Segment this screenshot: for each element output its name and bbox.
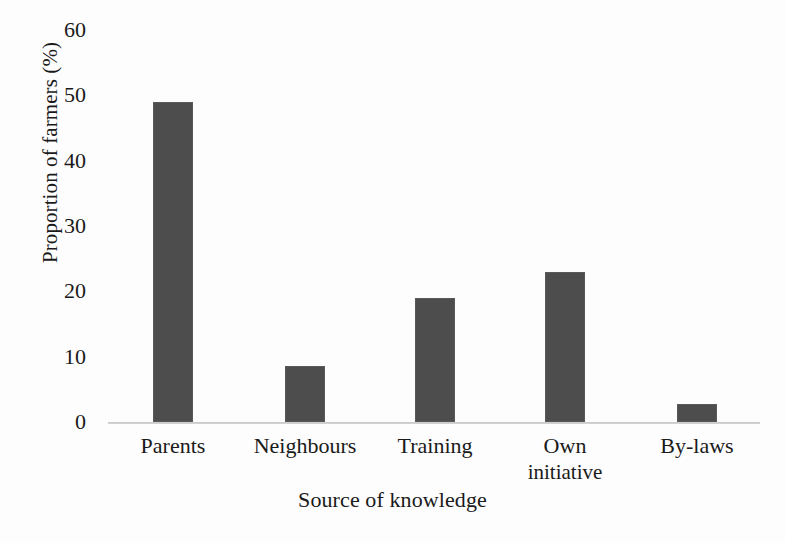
bar-by-laws: [677, 404, 717, 422]
bar-neighbours: [285, 366, 325, 422]
plot-area: [108, 30, 760, 422]
bar-own-initiative: [545, 272, 585, 422]
y-axis-tick-30: 30: [0, 215, 86, 237]
y-axis-tick-40: 40: [0, 150, 86, 172]
x-axis-tick-label-line2: initiative: [528, 459, 603, 486]
bar-parents: [153, 102, 193, 422]
y-axis-tick-10: 10: [0, 346, 86, 368]
x-axis-tick-label-line1: By-laws: [660, 433, 733, 458]
x-axis-tick-labels: ParentsNeighboursTrainingOwninitiativeBy…: [0, 432, 785, 492]
y-axis-tick-20: 20: [0, 280, 86, 302]
x-axis-tick-parents: Parents: [141, 432, 206, 459]
y-axis-tick-0: 0: [0, 411, 86, 433]
x-axis-tick-by-laws: By-laws: [660, 432, 733, 459]
x-axis-tick-training: Training: [398, 432, 473, 459]
x-axis-line: [108, 422, 760, 424]
y-axis-tick-50: 50: [0, 84, 86, 106]
x-axis-tick-label-line1: Parents: [141, 433, 206, 458]
x-axis-title: Source of knowledge: [0, 487, 785, 513]
x-axis-tick-own-initiative: Owninitiative: [528, 432, 603, 486]
bar-chart-figure: Proportion of farmers (%) 0102030405060 …: [0, 0, 785, 543]
y-axis-tick-60: 60: [0, 19, 86, 41]
x-axis-tick-label-line1: Own: [544, 433, 587, 458]
x-axis-tick-label-line1: Training: [398, 433, 473, 458]
bar-training: [415, 298, 455, 422]
x-axis-tick-neighbours: Neighbours: [254, 432, 357, 459]
x-axis-tick-label-line1: Neighbours: [254, 433, 357, 458]
